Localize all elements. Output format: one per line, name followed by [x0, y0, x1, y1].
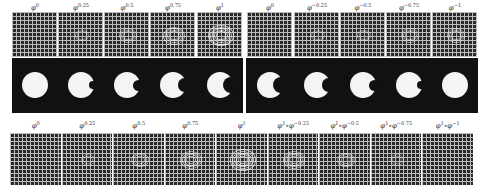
- composition-grid: [319, 133, 370, 185]
- bottom-label: φ1∘φ−0.5: [319, 120, 371, 130]
- composition-grid: [10, 133, 61, 185]
- shape-disc: [442, 72, 468, 98]
- composition-grid: [422, 133, 473, 185]
- shape-disc: [396, 72, 422, 98]
- warp-contour: [180, 151, 202, 169]
- disc-cutout: [322, 78, 336, 92]
- warp-contour: [163, 27, 185, 45]
- deformation-grid: [58, 12, 103, 57]
- shape-disc: [304, 72, 330, 98]
- shape-disc: [257, 72, 283, 98]
- bottom-label: φ1∘φ−0.25: [268, 120, 320, 130]
- warp-contour: [230, 149, 256, 170]
- bottom-label: φ0.75: [165, 120, 217, 130]
- bottom-label: φ0.5: [113, 120, 165, 130]
- top-right-label: φ−1: [432, 2, 478, 12]
- warp-contour: [357, 30, 371, 42]
- warp-contour: [81, 154, 95, 166]
- top-left-label: φ0.5: [104, 2, 150, 12]
- deformation-grid: [104, 12, 149, 57]
- shape-disc: [68, 72, 94, 98]
- warp-contour: [390, 154, 404, 166]
- warp-contour: [283, 151, 305, 169]
- top-left-label: φ0: [12, 2, 58, 12]
- disc-cutout: [133, 80, 144, 91]
- bottom-label: φ0: [10, 120, 62, 130]
- disc-cutout: [369, 80, 380, 91]
- deformation-grid: [340, 12, 385, 57]
- warp-contour: [131, 153, 149, 168]
- top-left-label: φ0.25: [58, 2, 104, 12]
- bottom-label: φ1∘φ−0.75: [371, 120, 423, 130]
- deformation-grid: [197, 12, 242, 57]
- top-left-label: φ0.75: [150, 2, 196, 12]
- top-right-label: φ0: [247, 2, 293, 12]
- shape-disc: [350, 72, 376, 98]
- composition-grid: [165, 133, 216, 185]
- deformation-grid: [12, 12, 57, 57]
- composition-grid: [268, 133, 319, 185]
- warp-contour: [447, 28, 465, 43]
- deformation-grid: [294, 12, 339, 57]
- composition-grid: [113, 133, 164, 185]
- warp-contour: [75, 30, 89, 42]
- composition-grid: [62, 133, 113, 185]
- deformation-grid: [432, 12, 477, 57]
- bottom-label: φ0.25: [62, 120, 114, 130]
- shape-disc: [207, 72, 233, 98]
- bottom-label: φ1: [216, 120, 268, 130]
- top-left-label: φ1: [197, 2, 243, 12]
- deformation-grid: [386, 12, 431, 57]
- warp-contour: [119, 28, 137, 43]
- deformation-grid: [150, 12, 195, 57]
- shape-disc: [22, 72, 48, 98]
- top-right-label: φ−0.25: [294, 2, 340, 12]
- composition-grid: [216, 133, 267, 185]
- warp-contour: [311, 30, 325, 42]
- shape-disc: [160, 72, 186, 98]
- bottom-label: φ1∘φ−1: [422, 120, 474, 130]
- deformation-grid: [247, 12, 292, 57]
- warp-contour: [401, 28, 419, 43]
- warp-contour: [337, 153, 355, 168]
- shape-disc: [114, 72, 140, 98]
- disc-cutout: [178, 78, 192, 92]
- top-right-label: φ−0.75: [386, 2, 432, 12]
- composition-grid: [371, 133, 422, 185]
- top-right-label: φ−0.5: [340, 2, 386, 12]
- warp-contour: [208, 25, 234, 46]
